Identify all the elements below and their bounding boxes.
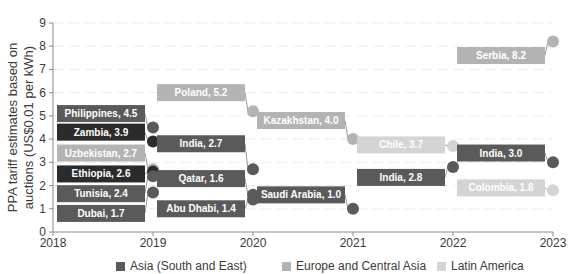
x-tick-label: 2022 bbox=[440, 236, 467, 250]
legend-swatch bbox=[116, 262, 125, 271]
data-point bbox=[247, 163, 259, 175]
y-axis-title: PPA tariff estimates based onauctions (U… bbox=[5, 43, 36, 212]
y-tick-label: 4 bbox=[39, 132, 46, 146]
x-tick-label: 2018 bbox=[40, 236, 67, 250]
data-label: Chile, 3.7 bbox=[379, 139, 423, 150]
data-point bbox=[147, 122, 159, 134]
data-label: Ethiopia, 2.6 bbox=[72, 168, 131, 179]
x-tick-label: 2020 bbox=[240, 236, 267, 250]
data-label: Philippines, 4.5 bbox=[65, 108, 138, 119]
y-axis-title-line: PPA tariff estimates based on bbox=[5, 43, 20, 212]
chart: 0123456789201820192020202120222023 PPA t… bbox=[0, 0, 568, 274]
x-tick-label: 2023 bbox=[540, 236, 567, 250]
data-label: Colombia, 1.8 bbox=[468, 182, 533, 193]
data-label: India, 2.7 bbox=[180, 138, 223, 149]
y-tick-label: 5 bbox=[39, 109, 46, 123]
x-tick-label: 2019 bbox=[140, 236, 167, 250]
y-tick-label: 6 bbox=[39, 86, 46, 100]
data-label: Tunisia, 2.4 bbox=[74, 188, 128, 199]
legend-swatch bbox=[437, 262, 446, 271]
data-label: Dubai, 1.7 bbox=[77, 208, 125, 219]
data-point bbox=[547, 184, 559, 196]
data-label: Kazakhstan, 4.0 bbox=[263, 115, 338, 126]
data-label: Serbia, 8.2 bbox=[476, 50, 526, 61]
y-tick-label: 2 bbox=[39, 179, 46, 193]
data-point bbox=[147, 187, 159, 199]
y-tick-label: 9 bbox=[39, 16, 46, 30]
data-label: Zambia, 3.9 bbox=[74, 127, 129, 138]
data-label: India, 3.0 bbox=[480, 148, 523, 159]
data-point bbox=[547, 36, 559, 48]
data-label: Poland, 5.2 bbox=[175, 87, 228, 98]
data-label: Saudi Arabia, 1.0 bbox=[261, 189, 342, 200]
leader-line bbox=[245, 144, 248, 170]
leader-line bbox=[145, 193, 148, 214]
data-label: India, 2.8 bbox=[380, 172, 423, 183]
data-label: Abu Dhabi, 1.4 bbox=[166, 203, 236, 214]
data-labels: Philippines, 4.5Zambia, 3.9Uzbekistan, 2… bbox=[57, 47, 545, 222]
data-label: Uzbekistan, 2.7 bbox=[65, 148, 138, 159]
data-point bbox=[547, 156, 559, 168]
legend: Asia (South and East)Europe and Central … bbox=[116, 259, 524, 273]
legend-label: Europe and Central Asia bbox=[296, 259, 426, 273]
legend-label: Asia (South and East) bbox=[130, 259, 247, 273]
legend-label: Latin America bbox=[451, 259, 524, 273]
data-point bbox=[347, 203, 359, 215]
data-point bbox=[447, 161, 459, 173]
x-tick-label: 2021 bbox=[340, 236, 367, 250]
leader-line bbox=[245, 93, 248, 112]
leader-line bbox=[345, 121, 348, 140]
y-tick-label: 3 bbox=[39, 155, 46, 169]
legend-swatch bbox=[282, 262, 291, 271]
y-tick-label: 8 bbox=[39, 39, 46, 53]
y-axis-title-line: auctions (US$0.01 per kWh) bbox=[21, 46, 36, 209]
y-tick-label: 7 bbox=[39, 62, 46, 76]
y-tick-label: 1 bbox=[39, 202, 46, 216]
data-label: Qatar, 1.6 bbox=[178, 173, 223, 184]
